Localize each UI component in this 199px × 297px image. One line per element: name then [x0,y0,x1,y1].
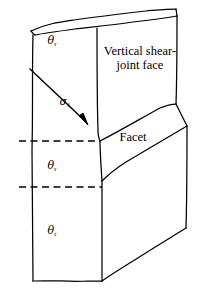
top-face-edge-front [35,16,177,35]
label-sigma-1: σ1 [52,95,78,108]
sigma-1-subscript: 1 [67,101,70,108]
block-diagram-figure: θr σ1 θr θr Vertical shear-joint face Fa… [0,0,199,297]
front-face-bottom-edge [33,281,102,282]
label-facet: Facet [110,130,156,144]
top-face-edge-back [31,9,176,31]
theta-bottom-subscript: r [54,230,56,237]
facet-left-edge [100,141,102,181]
theta-top-subscript: r [54,40,56,47]
label-vertical-shear-joint-face: Vertical shear-joint face [99,44,181,72]
label-theta-top: θr [38,34,66,47]
lower-right-outer-edge [186,126,187,228]
label-theta-middle: θr [38,159,66,172]
sigma-1-symbol: σ [60,95,68,108]
theta-middle-subscript: r [54,165,56,172]
bottom-right-slanted-edge [102,228,186,281]
label-theta-bottom: θr [38,224,66,237]
top-face-edge-right [176,9,177,16]
sigma-1-arrow-head [79,113,88,125]
facet-right-edge [176,104,187,126]
